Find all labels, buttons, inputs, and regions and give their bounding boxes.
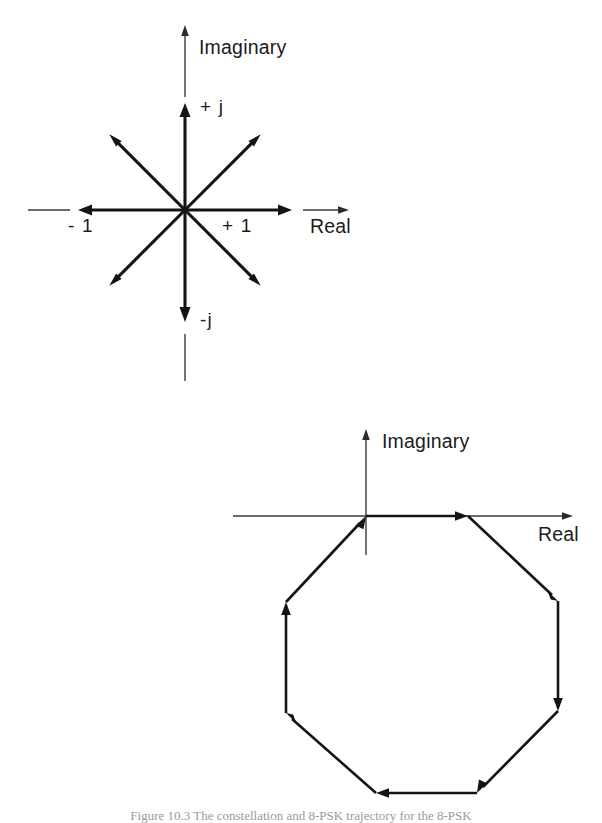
imaginary-axis-upper-stub: [181, 25, 189, 97]
real-axis-right-stub: [303, 206, 349, 214]
top-plus-j-label: + j: [200, 97, 224, 116]
bottom-real-axis-label: Real: [538, 525, 579, 545]
top-imaginary-axis-label: Imaginary: [199, 38, 286, 58]
constellation-vector-90deg: [180, 103, 191, 210]
top-minus-j-label: -j: [200, 310, 213, 329]
figure-caption: Figure 10.3 The constellation and 8-PSK …: [0, 808, 602, 823]
trajectory-edge-4: [477, 711, 558, 793]
top-real-axis-label: Real: [310, 217, 351, 237]
top-constellation-panel: [28, 25, 349, 381]
constellation-vector-270deg: [180, 210, 191, 322]
trajectory-edge-7: [281, 602, 291, 713]
bottom-imaginary-axis-label: Imaginary: [382, 432, 469, 452]
trajectory-edge-5: [376, 788, 477, 798]
constellation-vector-180deg: [78, 205, 185, 216]
top-minus-one-label: - 1: [68, 216, 94, 235]
top-plus-one-label: + 1: [222, 216, 253, 235]
trajectory-edge-6: [286, 713, 376, 793]
bottom-imaginary-axis: [362, 429, 370, 555]
constellation-vector-45deg: [185, 134, 261, 210]
figure-root: Imaginary + j -j + 1 - 1 Real Imaginary …: [0, 0, 602, 823]
trajectory-edge-8: [286, 516, 366, 602]
constellation-vector-225deg: [109, 210, 185, 286]
constellation-vector-135deg: [109, 134, 185, 210]
bottom-trajectory-panel: [233, 429, 573, 798]
constellation-vector-0deg: [185, 205, 292, 216]
phase-diagrams-svg: [0, 0, 602, 823]
trajectory-edge-1: [366, 511, 468, 521]
trajectory-edge-3: [553, 601, 563, 711]
